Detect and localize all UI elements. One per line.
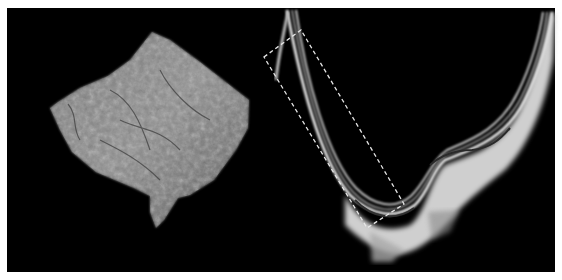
oct-figure: [0, 0, 562, 280]
b-scan: [276, 10, 555, 262]
region-of-interest-box: [264, 30, 404, 228]
volume-rendering: [50, 32, 249, 228]
